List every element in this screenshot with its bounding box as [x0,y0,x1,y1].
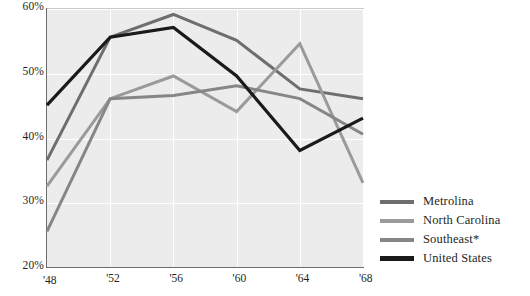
legend-item[interactable]: Southeast* [380,230,530,249]
legend-item[interactable]: United States [380,249,530,268]
legend-label: Southeast* [423,232,479,247]
series-lines [47,8,363,267]
gridline-vertical [363,9,364,268]
legend-swatch [380,200,414,204]
series-line [47,86,363,232]
legend-swatch [380,256,414,261]
legend-swatch [380,238,414,242]
x-axis-tick-label: '56 [169,272,183,284]
chart-legend: MetrolinaNorth CarolinaSoutheast*United … [380,192,530,268]
x-axis-tick-label: '64 [296,272,310,284]
x-axis-tick-labels: '48'52'56'60'64'68 [0,270,372,292]
y-axis-tick-label: 50% [23,65,44,77]
series-line [47,14,363,160]
legend-label: United States [423,251,492,266]
legend-item[interactable]: North Carolina [380,211,530,230]
legend-item[interactable]: Metrolina [380,192,530,211]
x-axis-line [46,267,364,268]
legend-label: North Carolina [423,213,500,228]
x-axis-tick-label: '60 [233,272,247,284]
y-axis-tick-label: 40% [23,130,44,142]
y-axis-tick-label: 60% [23,0,44,12]
legend-label: Metrolina [423,194,474,209]
x-axis-tick-label: '52 [106,272,120,284]
legend-swatch [380,219,414,223]
plot-container: 20%30%40%50%60% '48'52'56'60'64'68 [0,0,372,296]
x-axis-tick-label: '68 [359,272,373,284]
y-axis-tick-label: 30% [23,194,44,206]
x-axis-tick-label: '48 [43,274,57,286]
chart-figure: 20%30%40%50%60% '48'52'56'60'64'68 Metro… [0,0,530,296]
y-axis-tick-labels: 20%30%40%50%60% [0,0,44,296]
